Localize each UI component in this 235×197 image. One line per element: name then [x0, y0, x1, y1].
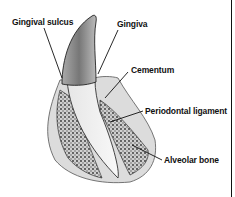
label-periodontal-ligament: Periodontal ligament	[145, 106, 227, 116]
label-gingiva: Gingiva	[117, 19, 147, 29]
label-cementum: Cementum	[131, 65, 174, 75]
leader-gingiva	[98, 30, 118, 74]
leader-gingival-sulcus	[44, 28, 62, 78]
label-gingival-sulcus: Gingival sulcus	[12, 17, 73, 27]
tooth-illustration	[0, 0, 235, 197]
label-alveolar-bone: Alveolar bone	[164, 155, 219, 165]
